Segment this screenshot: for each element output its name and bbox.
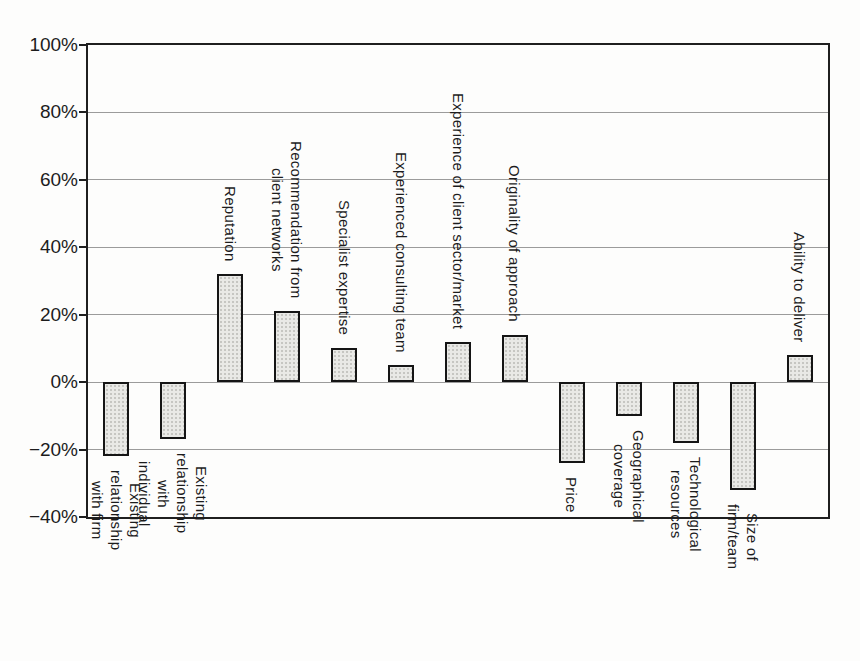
y-axis-tick-label: 60% [0, 169, 78, 191]
category-label: Experience of client sector/market [449, 93, 468, 329]
bar-11 [673, 382, 699, 443]
y-axis-tick-label: 80% [0, 101, 78, 123]
y-axis-tick-mark [79, 179, 86, 181]
category-label: Recommendation from client networks [268, 141, 306, 298]
y-axis-tick-label: 40% [0, 236, 78, 258]
category-label: Geographical coverage [610, 430, 648, 523]
bar-12 [730, 382, 756, 490]
category-label: Reputation [221, 186, 240, 262]
y-axis-tick-mark [79, 516, 86, 518]
y-axis-tick-mark [79, 381, 86, 383]
category-label: Price [562, 477, 581, 513]
y-axis-tick-label: 20% [0, 304, 78, 326]
category-label: Existing relationship with individual [135, 453, 211, 533]
category-label: Originality of approach [505, 165, 524, 322]
gridline--20 [88, 449, 828, 450]
y-axis-tick-label: 0% [0, 371, 78, 393]
y-axis-tick-label: −20% [0, 439, 78, 461]
bar-10 [616, 382, 642, 416]
y-axis-tick-mark [79, 44, 86, 46]
category-label: Size of firm/team [724, 504, 762, 569]
category-label: Technological resources [667, 457, 705, 552]
category-label: Experienced consulting team [392, 152, 411, 353]
bar-9 [559, 382, 585, 463]
y-axis-tick-mark [79, 111, 86, 113]
y-axis-tick-mark [79, 246, 86, 248]
bar-7 [445, 342, 471, 382]
bar-2 [160, 382, 186, 439]
y-axis-tick-label: 100% [0, 34, 78, 56]
bar-5 [331, 348, 357, 382]
y-axis-tick-mark [79, 449, 86, 451]
bar-13 [787, 355, 813, 382]
chart-canvas: Existing relationship with firmExisting … [0, 0, 860, 661]
bar-1 [103, 382, 129, 456]
bar-6 [388, 365, 414, 382]
bar-3 [217, 274, 243, 382]
y-axis-tick-label: −40% [0, 506, 78, 528]
plot-area: Existing relationship with firmExisting … [86, 43, 830, 519]
category-label: Ability to deliver [790, 232, 809, 342]
bar-8 [502, 335, 528, 382]
bar-4 [274, 311, 300, 382]
category-label: Specialist expertise [335, 200, 354, 335]
y-axis-tick-mark [79, 314, 86, 316]
